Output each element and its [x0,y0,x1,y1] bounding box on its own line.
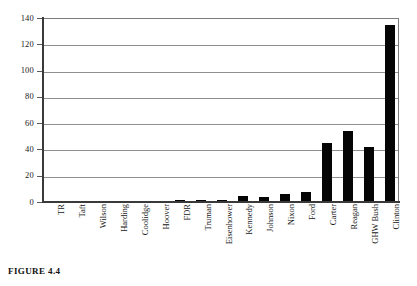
y-tick-mark-140 [37,18,42,19]
x-label-clinton: Clinton [392,204,401,230]
x-label-eisenhower: Eisenhower [225,204,234,244]
y-tick-label-140: 140 [21,14,34,23]
x-label-carter: Carter [329,204,338,225]
y-tick-mark-60 [37,123,42,124]
x-label-wilson: Wilson [99,204,108,228]
gridline-80 [44,98,398,99]
y-tick-label-80: 80 [25,92,34,101]
y-tick-mark-0 [37,202,42,203]
gridline-120 [44,45,398,46]
x-label-coolidge: Coolidge [141,204,150,235]
x-label-ford: Ford [308,204,317,220]
bar-carter [322,143,332,201]
x-label-reagan: Reagan [350,204,359,230]
x-label-kennedy: Kennedy [245,204,254,235]
figure-caption: FIGURE 4.4 [8,266,61,276]
x-axis-labels: TRTaftWilsonHardingCoolidgeHooverFDRTrum… [43,204,399,262]
y-tick-mark-20 [37,176,42,177]
bar-ghw-bush [364,147,374,201]
x-label-truman: Truman [204,204,213,231]
y-tick-label-40: 40 [25,145,34,154]
x-label-tr: TR [57,204,66,215]
y-tick-mark-80 [37,97,42,98]
x-label-johnson: Johnson [266,204,275,232]
bar-reagan [343,131,353,201]
y-axis-line [42,17,44,203]
y-tick-label-60: 60 [25,119,34,128]
y-tick-label-100: 100 [21,66,34,75]
y-tick-mark-120 [37,44,42,45]
bar-clinton [385,25,395,201]
y-tick-label-20: 20 [25,171,34,180]
x-label-ghw-bush: GHW Bush [371,204,380,244]
y-tick-label-0: 0 [30,198,34,207]
figure-container: 020406080100120140 TRTaftWilsonHardingCo… [0,0,417,286]
x-label-harding: Harding [120,204,129,232]
chart-plot-area [43,18,399,202]
y-tick-mark-100 [37,71,42,72]
y-tick-label-120: 120 [21,40,34,49]
y-tick-mark-40 [37,149,42,150]
x-axis-line [42,201,400,203]
x-label-nixon: Nixon [287,204,296,225]
gridline-100 [44,72,398,73]
x-label-fdr: FDR [183,204,192,221]
x-label-taft: Taft [78,204,87,218]
gridline-60 [44,124,398,125]
x-label-hoover: Hoover [162,204,171,230]
bar-ford [301,192,311,201]
